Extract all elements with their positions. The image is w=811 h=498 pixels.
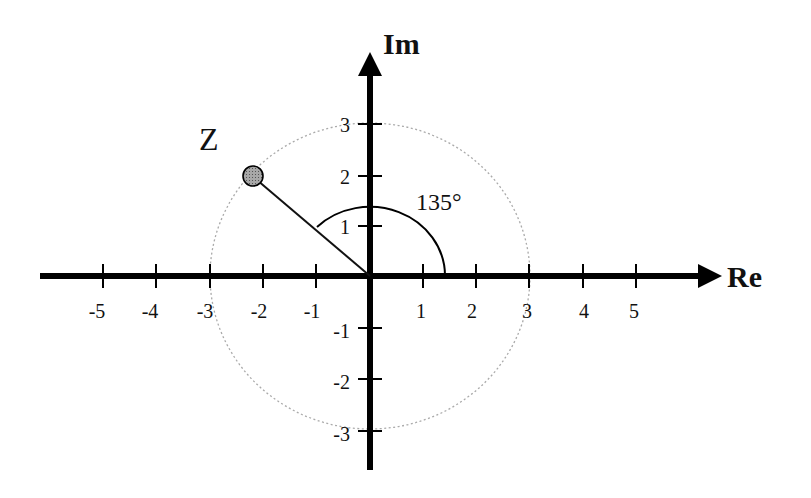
y-tick-labels: 3 2 1 -1 -2 -3 [333, 114, 350, 445]
diagram-canvas: -5 -4 -3 -2 -1 1 2 3 4 5 3 2 1 -1 -2 -3 … [0, 0, 811, 498]
x-tick-label: -2 [251, 300, 268, 322]
point-z-label: Z [199, 121, 219, 157]
x-tick-label: -4 [142, 300, 159, 322]
x-tick-label: -3 [197, 300, 214, 322]
y-tick-label: -1 [333, 320, 350, 342]
y-tick-label: 3 [340, 114, 350, 136]
x-tick-label: 3 [522, 300, 532, 322]
y-tick-label: -3 [333, 423, 350, 445]
angle-arc [317, 207, 445, 276]
x-tick-labels: -5 -4 -3 -2 -1 1 2 3 4 5 [89, 300, 639, 322]
imaginary-axis-label: Im [383, 27, 420, 60]
x-tick-label: 5 [629, 300, 639, 322]
x-tick-label: 4 [579, 300, 589, 322]
x-tick-label: 2 [467, 300, 477, 322]
x-tick-label: -1 [304, 300, 321, 322]
x-tick-label: -5 [89, 300, 106, 322]
complex-plane-diagram: -5 -4 -3 -2 -1 1 2 3 4 5 3 2 1 -1 -2 -3 … [0, 0, 811, 498]
x-tick-label: 1 [416, 300, 426, 322]
real-axis-arrowhead [698, 264, 722, 288]
vector-line [257, 180, 370, 276]
real-axis-label: Re [727, 260, 762, 293]
imaginary-axis-arrowhead [358, 52, 382, 76]
y-tick-label: -2 [333, 371, 350, 393]
y-tick-label: 2 [340, 166, 350, 188]
angle-label: 135° [416, 189, 462, 215]
y-tick-label: 1 [340, 216, 350, 238]
point-z-marker [243, 166, 263, 186]
